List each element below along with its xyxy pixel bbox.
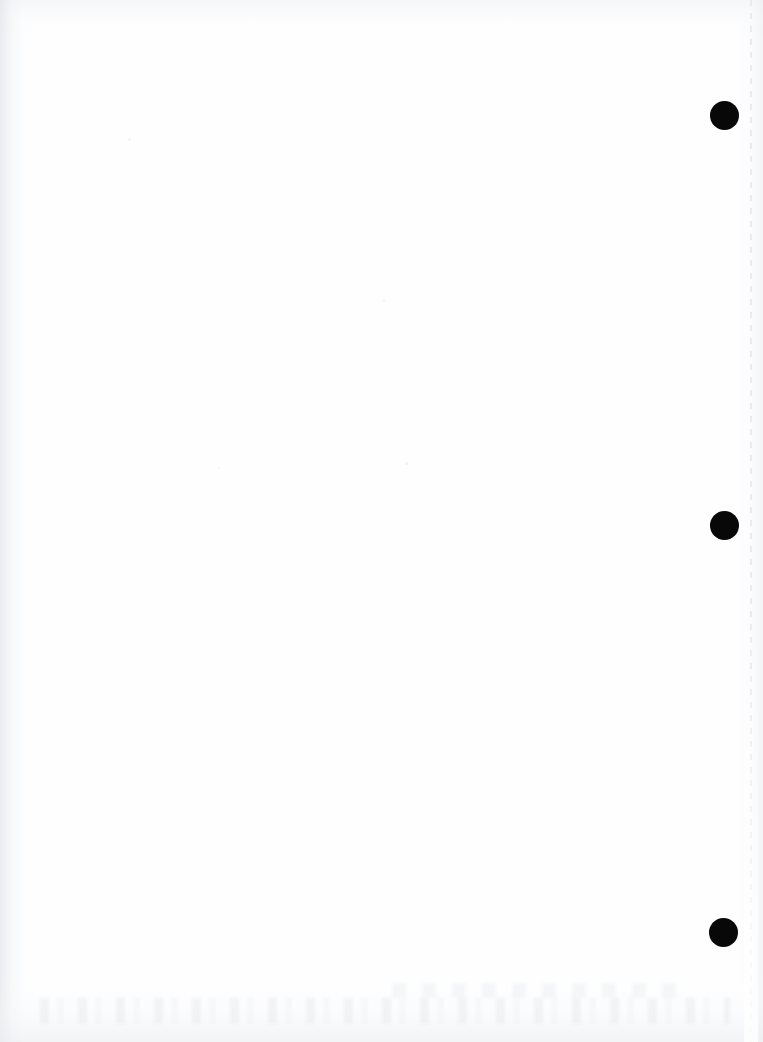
scanned-page	[0, 0, 763, 1042]
scan-speck-2	[383, 300, 385, 302]
mark-middle	[710, 511, 739, 540]
mark-top	[710, 101, 739, 130]
scan-ghost-text-upper	[392, 983, 692, 998]
paper-surface	[0, 0, 763, 1042]
scan-speck-3	[218, 467, 220, 469]
scan-ghost-text-lower	[40, 998, 730, 1024]
scan-speck-0	[128, 138, 131, 141]
mark-bottom	[709, 918, 738, 947]
scan-shadow-top	[0, 0, 763, 40]
scan-shadow-left	[0, 0, 34, 1042]
scan-speck-1	[405, 462, 408, 465]
right-margin-dashed-line	[750, 0, 752, 1042]
